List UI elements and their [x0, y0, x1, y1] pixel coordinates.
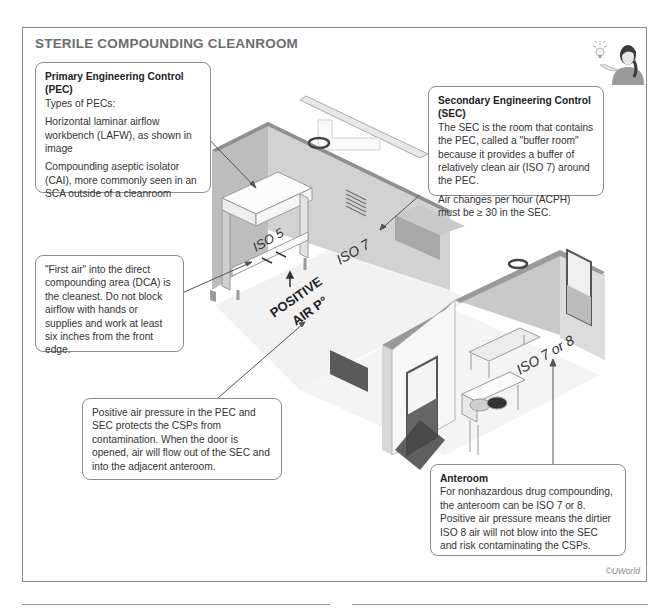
sec-para-buffer: The SEC is the room that contains the PE…: [438, 121, 594, 188]
page-title: STERILE COMPOUNDING CLEANROOM: [35, 36, 298, 51]
positive-pressure-callout: Positive air pressure in the PEC and SEC…: [82, 398, 282, 480]
anteroom-callout: Anteroom For nonhazardous drug compoundi…: [430, 464, 626, 556]
anteroom-text: For nonhazardous drug compounding, the a…: [440, 485, 616, 552]
divider-left: [22, 604, 330, 605]
copyright: ©UWorld: [605, 566, 640, 576]
anteroom-heading: Anteroom: [440, 472, 616, 485]
pec-heading: Primary Engineering Control (PEC): [45, 70, 201, 97]
pec-callout: Primary Engineering Control (PEC) Types …: [35, 62, 211, 193]
pec-subheading: Types of PECs:: [45, 97, 201, 110]
pec-para-lafw: Horizontal laminar airflow workbench (LA…: [45, 115, 201, 155]
first-air-text: "First air" into the direct compounding …: [45, 263, 174, 357]
sec-heading: Secondary Engineering Control (SEC): [438, 94, 594, 121]
presenter-with-lightbulb-icon: [590, 33, 648, 85]
sec-callout: Secondary Engineering Control (SEC) The …: [428, 86, 604, 196]
pec-para-cai: Compounding aseptic isolator (CAI), more…: [45, 160, 201, 200]
sec-para-acph: Air changes per hour (ACPH) must be ≥ 30…: [438, 193, 594, 220]
partition-wall-front: [382, 345, 392, 455]
positive-pressure-text: Positive air pressure in the PEC and SEC…: [92, 406, 272, 473]
divider-right: [352, 604, 648, 605]
first-air-callout: "First air" into the direct compounding …: [35, 255, 184, 352]
